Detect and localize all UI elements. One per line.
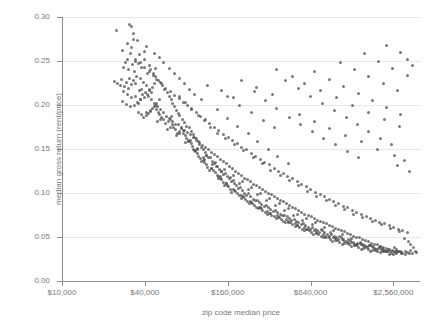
data-point [168,117,171,120]
data-point [131,63,134,66]
data-point [412,246,415,249]
y-tick-label: 0.15 [10,145,50,153]
x-axis-label: zip code median price [62,308,420,317]
data-point [115,29,118,32]
data-point [139,98,142,101]
data-point [321,102,324,105]
data-point [401,229,404,232]
data-point [365,245,368,248]
data-point [148,70,151,73]
data-point [342,85,345,88]
data-point [314,221,317,224]
y-tick-label: 0.00 [10,277,50,285]
data-point [388,253,391,256]
data-point [274,204,277,207]
data-point [156,120,159,123]
data-point [282,172,285,175]
data-point [250,111,253,114]
data-point [396,89,399,92]
data-point [236,142,239,145]
data-point [196,147,199,150]
data-point [361,216,364,219]
data-point [383,250,386,253]
data-point [288,116,291,119]
data-point [415,251,418,254]
data-point [264,99,267,102]
data-point [128,77,131,80]
data-point [383,222,386,225]
y-axis-label-wrap: median gross return (rent/price) [0,17,14,281]
data-point [393,154,396,157]
data-point [273,167,276,170]
data-point [273,126,276,129]
data-point [132,38,135,41]
data-point [397,228,400,231]
data-point [283,209,286,212]
data-point [132,32,135,35]
data-point [314,191,317,194]
data-point [367,111,370,114]
data-point [275,107,278,110]
x-axis-spine [62,281,420,282]
data-point [341,233,344,236]
data-point [127,68,130,71]
data-point [344,134,347,137]
data-point [377,60,380,63]
data-point [334,204,337,207]
data-point [126,93,129,96]
data-point [392,253,395,256]
gridline [62,61,420,62]
data-point [188,88,191,91]
data-point [152,74,155,77]
data-point [188,126,191,129]
data-point [149,109,152,112]
data-point [346,206,349,209]
data-point [183,82,186,85]
data-point [173,105,176,108]
data-point [333,109,336,112]
data-point [323,226,326,229]
y-tick-mark [57,61,62,62]
data-point [191,145,194,148]
data-point [121,100,124,103]
data-point [226,117,229,120]
data-point [338,235,341,238]
data-point [382,82,385,85]
data-point [217,175,220,178]
data-point [342,205,345,208]
data-point [241,180,244,183]
data-point [323,195,326,198]
data-point [296,180,299,183]
data-point [277,170,280,173]
data-point [213,126,216,129]
data-point [292,214,295,217]
data-point [183,121,186,124]
data-point [253,90,256,93]
data-point [190,108,193,111]
data-point [359,241,362,244]
data-point [399,113,402,116]
data-point [173,72,176,75]
data-point [332,229,335,232]
data-point [164,87,167,90]
data-point [328,78,331,81]
x-tick-label: $10,000 [27,289,97,297]
y-tick-mark [57,17,62,18]
data-point [390,143,393,146]
data-point [199,115,202,118]
data-point [319,193,322,196]
data-point [186,104,189,107]
data-point [297,87,300,90]
y-tick-mark [57,237,62,238]
x-tick-mark [145,281,146,286]
data-point [172,126,175,129]
data-point [258,206,261,209]
data-point [396,164,399,167]
data-point [398,125,401,128]
data-point [216,132,219,135]
data-point [225,182,228,185]
data-point [120,78,123,81]
data-point [182,101,185,104]
data-point [386,250,389,253]
data-point [122,90,125,93]
